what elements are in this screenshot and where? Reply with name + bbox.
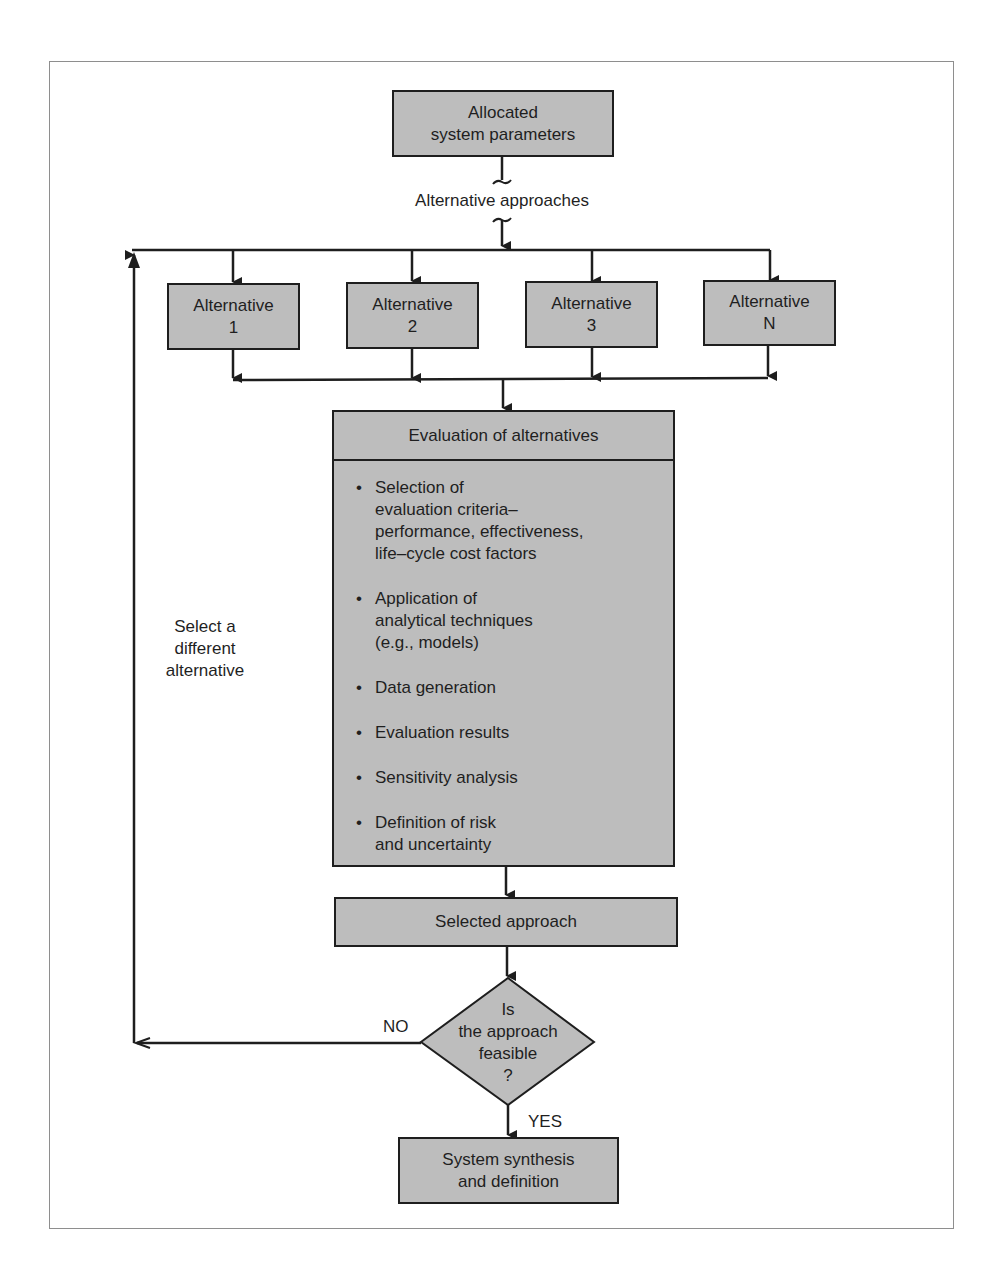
evaluation-item: •Evaluation results: [356, 722, 673, 744]
alt-n-line2: N: [763, 313, 775, 335]
start-line1: Allocated: [468, 102, 538, 124]
evaluation-item: •Sensitivity analysis: [356, 767, 673, 789]
evaluation-item: •Application of analytical techniques (e…: [356, 588, 673, 654]
selected-approach-box: Selected approach: [334, 897, 678, 947]
alternative-1-box: Alternative 1: [167, 283, 300, 350]
yes-label: YES: [528, 1111, 562, 1133]
start-line2: system parameters: [431, 124, 576, 146]
no-label: NO: [383, 1016, 409, 1038]
alternative-n-box: Alternative N: [703, 280, 836, 346]
evaluation-item: •Data generation: [356, 677, 673, 699]
alt-3-line1: Alternative: [551, 293, 631, 315]
bullet-icon: •: [356, 477, 362, 499]
alt-2-line2: 2: [408, 316, 417, 338]
evaluation-list: •Selection of evaluation criteria– perfo…: [334, 461, 673, 856]
alternative-2-box: Alternative 2: [346, 282, 479, 349]
evaluation-box: Evaluation of alternatives •Selection of…: [332, 410, 675, 867]
start-box-allocated-system-parameters: Allocated system parameters: [392, 90, 614, 157]
bullet-icon: •: [356, 767, 362, 789]
alt-1-line1: Alternative: [193, 295, 273, 317]
alt-n-line1: Alternative: [729, 291, 809, 313]
end-line2: and definition: [458, 1171, 559, 1193]
loop-label: Select a different alternative: [150, 616, 260, 682]
decision-label: Is the approach feasible ?: [421, 980, 595, 1106]
evaluation-item: •Definition of risk and uncertainty: [356, 812, 673, 856]
bullet-icon: •: [356, 722, 362, 744]
end-box-system-synthesis: System synthesis and definition: [398, 1137, 619, 1204]
branch-label: Alternative approaches: [392, 190, 612, 212]
bullet-icon: •: [356, 588, 362, 610]
alt-3-line2: 3: [587, 315, 596, 337]
alt-2-line1: Alternative: [372, 294, 452, 316]
alt-1-line2: 1: [229, 317, 238, 339]
end-line1: System synthesis: [442, 1149, 574, 1171]
evaluation-title: Evaluation of alternatives: [334, 412, 673, 461]
bullet-icon: •: [356, 677, 362, 699]
alternative-3-box: Alternative 3: [525, 281, 658, 348]
evaluation-item: •Selection of evaluation criteria– perfo…: [356, 477, 673, 565]
bullet-icon: •: [356, 812, 362, 834]
